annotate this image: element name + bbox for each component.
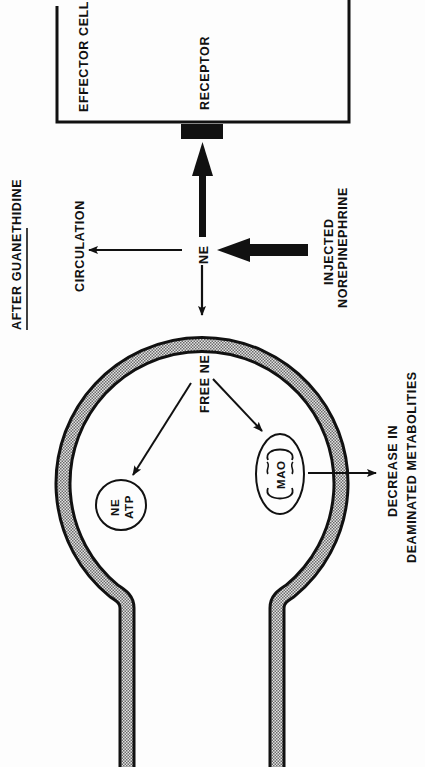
receptor-block: [181, 124, 223, 139]
arrow-ne-to-receptor: [192, 142, 213, 237]
arrow-free-ne-to-mao: [213, 379, 262, 431]
decrease-label: DECREASE IN: [386, 425, 400, 517]
arrow-free-ne-to-vesicle: [133, 383, 191, 475]
deaminated-metabolites-label: DEAMINATED METABOLITIES: [405, 371, 419, 563]
vesicle-ne-label: NE: [109, 499, 121, 516]
storage-vesicle: NE ATP: [96, 480, 146, 530]
injected-label: INJECTED: [322, 218, 336, 285]
mao-mitochondrion: MAO: [256, 434, 304, 514]
arrow-injected-to-ne: [217, 238, 308, 262]
norepinephrine-label: NOREPINEPHRINE: [336, 187, 350, 308]
free-ne-label: FREE NE: [198, 355, 212, 413]
guanethidine-diagram: EFFECTOR CELL RECEPTOR NE AFTER GUANETHI…: [0, 0, 425, 767]
mao-label: MAO: [275, 460, 287, 489]
title: AFTER GUANETHIDINE: [10, 179, 27, 330]
circulation-label: CIRCULATION: [73, 200, 87, 292]
vesicle-atp-label: ATP: [123, 495, 135, 519]
receptor-label: RECEPTOR: [198, 36, 212, 110]
ne-label: NE: [197, 245, 211, 264]
effector-cell-label: EFFECTOR CELL: [77, 1, 91, 112]
title-text: AFTER GUANETHIDINE: [10, 179, 24, 330]
